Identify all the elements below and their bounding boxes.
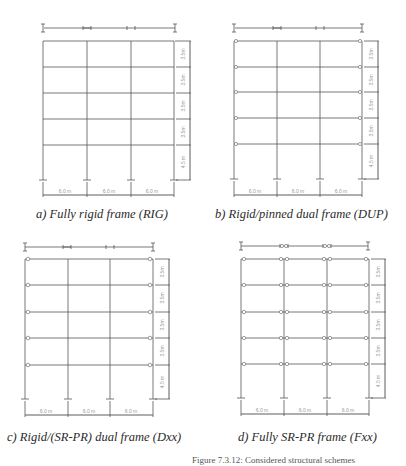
frame-diagram-b: 6.0 m 6.0 m 6.0 m 3.5m 3.5m 3.5m 3.5m 4.… [203,0,406,233]
panel-b-dual-pinned-frame: 6.0 m 6.0 m 6.0 m 3.5m 3.5m 3.5m 3.5m 4.… [203,0,406,233]
svg-text:3.5m: 3.5m [180,126,186,137]
figure-caption: Figure 7.3.12: Considered structural sch… [192,455,355,465]
frame-diagram-a: 6.0 m 6.0 m 6.0 m 3.5m 3.5m 3.5m 3.5m 4.… [0,0,203,233]
svg-text:3.5m: 3.5m [159,345,165,356]
svg-text:6.0 m: 6.0 m [249,188,262,194]
svg-text:6.0 m: 6.0 m [146,188,159,194]
svg-text:3.5m: 3.5m [159,266,165,277]
svg-text:4.5 m: 4.5 m [368,155,374,168]
svg-text:3.5m: 3.5m [375,345,381,356]
svg-text:6.0 m: 6.0 m [342,407,355,413]
svg-text:3.5m: 3.5m [180,74,186,85]
svg-text:6.0 m: 6.0 m [59,188,72,194]
svg-text:3.5m: 3.5m [368,48,374,59]
svg-text:3.5m: 3.5m [159,292,165,303]
svg-text:3.5m: 3.5m [375,292,381,303]
svg-text:3.5m: 3.5m [368,125,374,136]
svg-text:3.5m: 3.5m [180,48,186,59]
svg-text:3.5m: 3.5m [159,319,165,330]
svg-text:6.0 m: 6.0 m [103,188,116,194]
svg-text:6.0 m: 6.0 m [292,188,305,194]
svg-text:6.0 m: 6.0 m [83,408,96,414]
caption-c: c) Rigid/(SR-PR) dual frame (Dxx) [7,430,181,445]
svg-text:6.0 m: 6.0 m [335,188,348,194]
panel-a-rigid-frame: 6.0 m 6.0 m 6.0 m 3.5m 3.5m 3.5m 3.5m 4.… [0,0,203,233]
svg-text:6.0 m: 6.0 m [256,407,269,413]
svg-text:3.5m: 3.5m [180,100,186,111]
svg-text:6.0 m: 6.0 m [125,408,138,414]
svg-text:3.5m: 3.5m [375,319,381,330]
svg-text:4.5 m: 4.5 m [159,376,165,389]
caption-a: a) Fully rigid frame (RIG) [36,207,168,222]
caption-b: b) Rigid/pinned dual frame (DUP) [215,207,388,222]
svg-text:3.5m: 3.5m [368,99,374,110]
svg-text:3.5m: 3.5m [368,74,374,85]
panel-d-fully-srpr-frame: 6.0 m 6.0 m 6.0 m 3.5m 3.5m 3.5m 3.5m 4.… [203,233,406,466]
svg-text:6.0 m: 6.0 m [299,407,312,413]
svg-text:4.5 m: 4.5 m [180,156,186,169]
panel-c-dual-srpr-frame: 6.0 m 6.0 m 6.0 m 3.5m 3.5m 3.5m 3.5m 4.… [0,233,203,466]
caption-d: d) Fully SR-PR frame (Fxx) [238,430,377,445]
svg-text:6.0 m: 6.0 m [40,408,53,414]
svg-text:3.5m: 3.5m [375,266,381,277]
svg-text:4.5 m: 4.5 m [375,375,381,388]
